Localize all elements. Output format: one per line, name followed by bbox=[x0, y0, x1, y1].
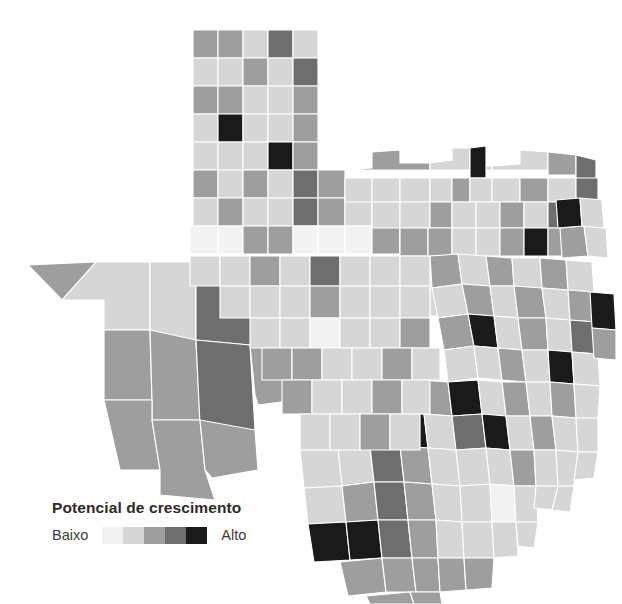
county-region bbox=[218, 114, 243, 142]
legend-swatch-5 bbox=[186, 527, 207, 544]
county-region bbox=[462, 522, 494, 558]
county-region bbox=[293, 30, 318, 58]
county-region bbox=[548, 152, 576, 175]
county-region bbox=[243, 170, 268, 198]
county-region bbox=[400, 256, 430, 286]
county-region bbox=[556, 198, 582, 228]
county-region bbox=[430, 178, 452, 202]
county-region bbox=[150, 262, 196, 340]
county-region bbox=[220, 256, 250, 286]
county-region bbox=[218, 86, 243, 114]
county-region bbox=[502, 382, 530, 416]
legend-scale: Baixo Alto bbox=[52, 527, 312, 544]
county-region bbox=[345, 178, 372, 202]
county-region bbox=[293, 198, 318, 226]
county-region bbox=[390, 414, 420, 450]
county-region bbox=[500, 202, 524, 228]
county-region bbox=[342, 380, 372, 414]
county-region bbox=[243, 30, 268, 58]
county-region bbox=[312, 380, 342, 414]
county-region bbox=[268, 114, 293, 142]
county-region bbox=[104, 400, 160, 470]
county-region bbox=[522, 350, 550, 382]
county-region bbox=[345, 226, 372, 254]
county-region bbox=[476, 228, 500, 256]
county-region bbox=[464, 558, 494, 590]
county-region bbox=[560, 226, 588, 258]
county-region bbox=[382, 558, 416, 592]
county-region bbox=[308, 522, 350, 562]
county-region bbox=[510, 450, 536, 486]
county-region bbox=[490, 286, 518, 318]
county-region bbox=[293, 58, 318, 86]
county-region bbox=[576, 418, 598, 452]
county-region bbox=[478, 380, 506, 416]
county-region bbox=[584, 226, 608, 258]
county-region bbox=[370, 256, 400, 286]
county-region bbox=[310, 286, 340, 318]
legend-swatch-2 bbox=[123, 527, 144, 544]
county-region bbox=[526, 382, 552, 416]
map-legend: Potencial de crescimento Baixo Alto bbox=[52, 500, 312, 544]
legend-low-label: Baixo bbox=[52, 528, 88, 543]
county-region bbox=[430, 254, 462, 288]
county-region bbox=[486, 448, 514, 486]
county-region bbox=[280, 286, 310, 318]
county-region bbox=[268, 198, 293, 226]
county-region bbox=[534, 450, 558, 486]
county-region bbox=[250, 286, 280, 318]
county-region bbox=[448, 380, 482, 416]
county-region bbox=[250, 318, 280, 348]
county-region bbox=[382, 348, 412, 380]
county-region bbox=[293, 86, 318, 114]
county-region bbox=[518, 318, 548, 350]
county-region bbox=[524, 228, 548, 256]
county-region bbox=[436, 520, 464, 558]
county-region bbox=[262, 348, 292, 380]
county-region bbox=[268, 86, 293, 114]
county-region bbox=[410, 592, 442, 604]
county-region bbox=[342, 482, 378, 522]
county-region bbox=[474, 346, 502, 380]
county-region bbox=[104, 330, 152, 400]
county-region bbox=[576, 155, 596, 180]
county-region bbox=[470, 178, 492, 202]
county-region bbox=[340, 318, 370, 348]
county-region bbox=[424, 414, 456, 450]
county-region bbox=[243, 142, 268, 170]
county-region bbox=[280, 318, 310, 348]
county-region bbox=[243, 198, 268, 226]
legend-swatch-1 bbox=[102, 527, 123, 544]
county-region bbox=[193, 170, 218, 198]
county-region bbox=[458, 254, 490, 286]
county-region bbox=[345, 150, 430, 170]
county-region bbox=[378, 520, 412, 558]
county-region bbox=[452, 414, 486, 450]
county-region bbox=[268, 226, 293, 254]
county-region bbox=[352, 348, 382, 380]
county-region bbox=[268, 58, 293, 86]
county-region bbox=[494, 316, 522, 350]
county-region bbox=[310, 256, 340, 286]
county-region bbox=[456, 448, 490, 486]
county-region bbox=[193, 114, 218, 142]
county-region bbox=[193, 142, 218, 170]
county-region bbox=[190, 226, 218, 254]
county-region bbox=[293, 114, 318, 142]
county-region bbox=[400, 178, 430, 202]
county-region bbox=[346, 520, 382, 560]
county-region bbox=[452, 202, 476, 228]
county-region bbox=[190, 256, 220, 286]
county-region bbox=[506, 416, 534, 450]
county-region bbox=[218, 198, 243, 226]
county-region bbox=[444, 346, 478, 382]
county-region bbox=[370, 318, 400, 348]
county-region bbox=[412, 348, 440, 380]
county-region bbox=[372, 202, 400, 228]
county-region bbox=[546, 318, 572, 352]
county-region bbox=[268, 30, 293, 58]
county-region bbox=[492, 522, 518, 558]
county-region bbox=[542, 288, 570, 320]
county-region bbox=[432, 484, 462, 522]
county-region bbox=[268, 142, 293, 170]
